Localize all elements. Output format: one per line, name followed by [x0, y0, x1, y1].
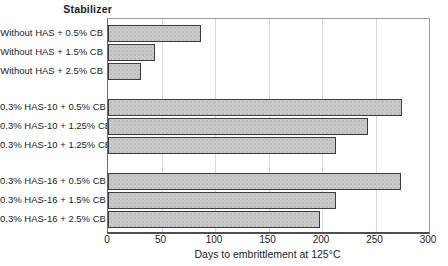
bar: [108, 99, 402, 116]
bar-chart-figure: Stabilizer Without HAS + 0.5% CBWithout …: [0, 0, 448, 266]
x-axis: 050100150200250300: [107, 234, 428, 247]
bar: [108, 44, 155, 61]
bar: [108, 192, 336, 209]
bar: [108, 173, 401, 190]
category-label: 0.3% HAS-10 + 1.25% CB: [0, 117, 103, 134]
category-label: 0.3% HAS-16 + 1.5% CB: [0, 191, 103, 208]
chart-title: Stabilizer: [0, 3, 112, 15]
bar: [108, 25, 201, 42]
category-labels: Without HAS + 0.5% CBWithout HAS + 1.5% …: [0, 18, 103, 231]
bar: [108, 137, 336, 154]
x-tick-label: 200: [303, 234, 339, 245]
gridline: [376, 19, 377, 232]
x-tick-label: 50: [143, 234, 179, 245]
category-label: 0.3% HAS-16 + 2.5% CB: [0, 210, 103, 227]
bar: [108, 211, 320, 228]
x-tick-label: 300: [410, 234, 446, 245]
category-label: 0.3% HAS-16 + 0.5% CB: [0, 172, 103, 189]
category-label: 0.3% HAS-10 + 1.25% CB: [0, 136, 103, 153]
bar: [108, 118, 368, 135]
x-tick-label: 0: [89, 234, 125, 245]
x-tick-label: 150: [250, 234, 286, 245]
category-label: Without HAS + 2.5% CB: [0, 62, 103, 79]
x-axis-title: Days to embrittlement at 125°C: [107, 248, 428, 260]
category-label: Without HAS + 0.5% CB: [0, 24, 103, 41]
bar: [108, 63, 141, 80]
x-tick-label: 250: [357, 234, 393, 245]
x-tick-label: 100: [196, 234, 232, 245]
category-label: Without HAS + 1.5% CB: [0, 43, 103, 60]
category-label: 0.3% HAS-10 + 0.5% CB: [0, 98, 103, 115]
plot-area: [107, 18, 430, 234]
